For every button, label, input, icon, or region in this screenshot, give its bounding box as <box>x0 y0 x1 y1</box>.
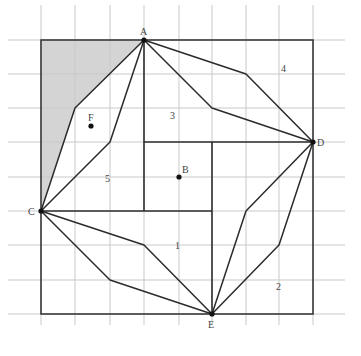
point-d <box>310 139 315 144</box>
shape-right-quad <box>212 142 313 314</box>
point-c <box>38 208 43 213</box>
region-label-2: 2 <box>276 281 281 292</box>
label-c: C <box>28 206 35 217</box>
label-f: F <box>88 112 94 123</box>
region-label-1: 1 <box>175 240 180 251</box>
region-label-5: 5 <box>105 173 110 184</box>
label-e: E <box>208 319 214 330</box>
label-d: D <box>317 137 324 148</box>
label-a: A <box>140 26 148 37</box>
point-f <box>88 123 93 128</box>
shape-top-quad <box>144 40 313 142</box>
region-label-4: 4 <box>281 63 286 74</box>
region-label-3: 3 <box>170 110 175 121</box>
geometry-diagram: A B C D E F 1 2 3 4 5 <box>0 0 361 356</box>
label-b: B <box>182 164 189 175</box>
shape-bottom-quad <box>41 211 212 314</box>
point-a <box>141 37 146 42</box>
point-e <box>209 311 214 316</box>
point-b <box>176 174 181 179</box>
